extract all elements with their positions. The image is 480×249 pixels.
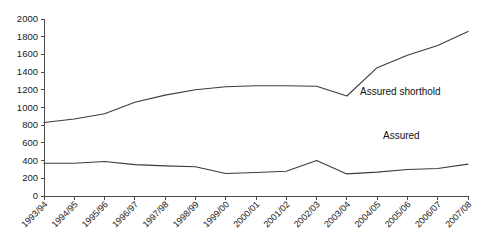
x-tick-label: 2000/01	[231, 199, 261, 229]
y-axis: 0200400600800100012001400160018002000	[17, 13, 44, 201]
series-label-assured: Assured	[383, 130, 420, 141]
x-tick-label: 1998/99	[171, 199, 201, 229]
y-tick-label: 1400	[17, 66, 38, 77]
y-tick-label: 400	[22, 155, 38, 166]
y-tick-labels: 0200400600800100012001400160018002000	[17, 13, 38, 201]
x-tick-label: 2006/07	[413, 199, 443, 229]
x-tick-label: 1994/95	[50, 199, 80, 229]
x-tick-label: 2005/06	[383, 199, 413, 229]
x-tick-label: 2007/08	[443, 199, 473, 229]
x-tick-label: 1999/00	[201, 199, 231, 229]
y-tick-label: 1000	[17, 102, 38, 113]
y-tick-label: 1600	[17, 48, 38, 59]
series-line-assured	[44, 161, 468, 174]
y-tick-label: 2000	[17, 13, 38, 24]
x-tick-labels: 1993/941994/951995/961996/971997/981998/…	[19, 199, 473, 229]
x-tick-label: 1997/98	[140, 199, 170, 229]
y-tick-label: 200	[22, 172, 38, 183]
line-chart: 0200400600800100012001400160018002000 19…	[0, 0, 480, 249]
x-tick-label: 1993/94	[19, 199, 49, 229]
y-tick-label: 0	[33, 190, 38, 201]
y-tick-label: 600	[22, 137, 38, 148]
y-tick-label: 800	[22, 119, 38, 130]
x-tick-label: 2003/04	[322, 199, 352, 229]
y-tick-label: 1200	[17, 84, 38, 95]
chart-canvas: 0200400600800100012001400160018002000 19…	[0, 0, 480, 249]
x-tick-label: 1995/96	[80, 199, 110, 229]
x-axis: 1993/941994/951995/961996/971997/981998/…	[19, 196, 473, 229]
x-tick-label: 2001/02	[262, 199, 292, 229]
series-label-assured-shorthold: Assured shorthold	[360, 86, 441, 97]
x-tick-label: 2002/03	[292, 199, 322, 229]
y-tick-label: 1800	[17, 31, 38, 42]
series-lines	[44, 31, 468, 173]
series-line-assured-shorthold	[44, 31, 468, 122]
x-tick-label: 1996/97	[110, 199, 140, 229]
x-tick-label: 2004/05	[352, 199, 382, 229]
